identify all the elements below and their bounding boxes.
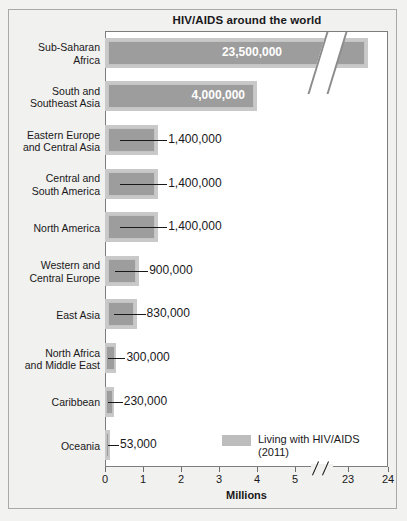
value-leader-line (108, 445, 119, 446)
x-tick-label: 4 (245, 473, 269, 485)
x-tick-label: 1 (131, 473, 155, 485)
value-leader-line (120, 227, 167, 228)
bar-value-label: 230,000 (124, 394, 167, 408)
category-label: Oceania (8, 440, 100, 453)
category-label: Caribbean (8, 396, 100, 409)
bar-value-label: 23,500,000 (222, 45, 282, 59)
x-tick (181, 467, 182, 472)
x-tick (295, 467, 296, 472)
value-leader-line (115, 271, 149, 272)
category-label: East Asia (8, 309, 100, 322)
axis-break-marker (317, 32, 337, 94)
category-label: North America (8, 222, 100, 235)
x-tick-label: 5 (283, 473, 307, 485)
value-leader-line (120, 184, 167, 185)
bar-value-label: 900,000 (149, 263, 192, 277)
category-label: North Africa and Middle East (8, 347, 100, 372)
value-leader-line (108, 358, 125, 359)
x-tick-label: 2 (169, 473, 193, 485)
x-tick (143, 467, 144, 472)
x-tick (219, 467, 220, 472)
figure-container: HIV/AIDS around the world Sub-Saharan Af… (0, 0, 407, 521)
value-leader-line (114, 314, 146, 315)
x-tick (105, 467, 106, 472)
page-title: HIV/AIDS around the world (105, 14, 389, 26)
legend-label: Living with HIV/AIDS (2011) (258, 433, 382, 459)
x-tick (348, 467, 349, 472)
bar-value-label: 4,000,000 (192, 88, 245, 102)
x-axis-title: Millions (105, 489, 388, 501)
bar-value-label: 53,000 (120, 437, 157, 451)
x-tick-label: 0 (93, 473, 117, 485)
legend: Living with HIV/AIDS (2011) (222, 433, 382, 465)
category-label: Eastern Europe and Central Asia (8, 129, 100, 154)
value-leader-line (120, 140, 167, 141)
bar-value-label: 300,000 (126, 350, 169, 364)
x-tick-label: 3 (207, 473, 231, 485)
x-tick (257, 467, 258, 472)
category-label: South and Southeast Asia (8, 85, 100, 110)
category-label: Sub-Saharan Africa (8, 41, 100, 66)
value-leader-line (108, 402, 123, 403)
category-label: Central and South America (8, 172, 100, 197)
category-axis-labels: Sub-Saharan AfricaSouth and Southeast As… (9, 31, 104, 467)
category-label: Western and Central Europe (8, 259, 100, 284)
bar-value-label: 1,400,000 (168, 176, 221, 190)
bar-value-label: 830,000 (147, 306, 190, 320)
bar-value-label: 1,400,000 (168, 132, 221, 146)
x-tick-label: 24 (376, 473, 400, 485)
legend-swatch-living-with-hiv (222, 435, 251, 446)
bar-value-label: 1,400,000 (168, 219, 221, 233)
x-tick-label: 23 (336, 473, 360, 485)
x-tick (388, 467, 389, 472)
